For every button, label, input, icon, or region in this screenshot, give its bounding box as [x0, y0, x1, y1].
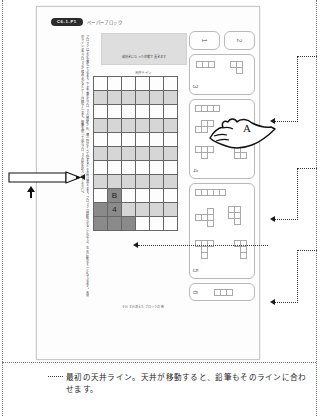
grid-cell[interactable] — [164, 119, 178, 133]
grid-cell[interactable] — [94, 119, 108, 133]
annotation-arrow-1 — [270, 118, 275, 124]
grid-cell[interactable] — [122, 119, 136, 133]
screenshot-viewport: C6-1-P1 ペーパーブロック ブロックは上から落ちてきます。下まで落ちたブロ… — [0, 0, 320, 416]
annotation-arrow-grid — [133, 242, 138, 248]
grid-cell[interactable] — [108, 77, 122, 91]
annotation-arrow-3 — [270, 299, 275, 305]
piece-panel-row-top: 1 2 — [189, 31, 255, 54]
piece-panel-1: 1 — [189, 31, 220, 50]
annotation-arrow-pencil — [80, 174, 85, 180]
instruction-text-vertical: ブロックは上から落ちてきます。下まで落ちたブロックは固定され、横一列がすべて埋ま… — [47, 35, 89, 297]
note-box-text: 縦向きになった状態で置きます — [102, 54, 186, 59]
grid-cell[interactable] — [94, 175, 108, 189]
piece-panel-2: 2 — [224, 31, 255, 50]
grid-cell[interactable] — [150, 217, 164, 231]
grid-cell[interactable] — [150, 175, 164, 189]
grid-cell[interactable] — [108, 217, 122, 231]
grid-cell[interactable] — [108, 91, 122, 105]
caption-leader — [48, 376, 63, 377]
grid-cell-label: B — [108, 189, 121, 202]
grid-cell[interactable] — [108, 175, 122, 189]
grid-cell[interactable] — [136, 77, 150, 91]
grid-cell[interactable] — [136, 91, 150, 105]
grid-cell[interactable] — [150, 91, 164, 105]
grid-cell-label: 4 — [108, 203, 121, 216]
grid-cell[interactable]: 4 — [108, 203, 122, 217]
grid-cell[interactable] — [150, 119, 164, 133]
page-caption: 最初の天井ライン。天井が移動すると、鉛筆もそのラインに合わせます。 — [66, 372, 310, 396]
piece-panel-2-number: 2 — [236, 39, 243, 43]
grid-cell[interactable] — [150, 161, 164, 175]
piece-panel-5: 5 — [189, 183, 255, 279]
play-grid: B4 — [93, 76, 178, 231]
grid-cell[interactable] — [122, 217, 136, 231]
piece-panel-6-number: 6 — [192, 291, 199, 295]
guide-right — [316, 0, 317, 416]
grid-cell[interactable] — [122, 161, 136, 175]
annotation-arrow-2 — [270, 216, 275, 222]
grid-cell[interactable] — [108, 161, 122, 175]
grid-cell[interactable]: B — [108, 189, 122, 203]
grid-cell[interactable] — [164, 147, 178, 161]
page-header: C6-1-P1 ペーパーブロック — [51, 18, 122, 26]
piece-panel-column: 1 2 3 — [189, 31, 255, 305]
grid-cell[interactable] — [150, 77, 164, 91]
grid-cell[interactable] — [94, 105, 108, 119]
grid-cell[interactable] — [164, 91, 178, 105]
grid-cell[interactable] — [122, 91, 136, 105]
grid-cell[interactable] — [94, 77, 108, 91]
grid-cell[interactable] — [150, 147, 164, 161]
grid-cell[interactable] — [108, 119, 122, 133]
grid-cell[interactable] — [136, 217, 150, 231]
grid-cell[interactable] — [94, 203, 108, 217]
grid-cell[interactable] — [122, 203, 136, 217]
grid-cell[interactable] — [108, 105, 122, 119]
grid-cell[interactable] — [94, 133, 108, 147]
grid-cell[interactable] — [164, 217, 178, 231]
guide-left — [2, 0, 3, 416]
grid-cell[interactable] — [164, 189, 178, 203]
grid-cell[interactable] — [108, 147, 122, 161]
grid-cell[interactable] — [94, 161, 108, 175]
grid-cell[interactable] — [122, 77, 136, 91]
grid-cell[interactable] — [136, 147, 150, 161]
grid-cell[interactable] — [136, 105, 150, 119]
grid-cell[interactable] — [94, 189, 108, 203]
piece-panel-1-number: 1 — [201, 39, 208, 43]
grid-cell[interactable] — [136, 119, 150, 133]
grid-cell[interactable] — [136, 203, 150, 217]
grid-cell[interactable] — [150, 189, 164, 203]
grid-cell[interactable] — [164, 175, 178, 189]
grid-cell[interactable] — [164, 133, 178, 147]
grid-cell[interactable] — [122, 133, 136, 147]
grid-cell[interactable] — [136, 133, 150, 147]
piece-panel-6: 6 — [189, 283, 255, 301]
grid-cell[interactable] — [164, 203, 178, 217]
pencil-icon — [8, 170, 82, 185]
grid-cell[interactable] — [122, 189, 136, 203]
grid-cell[interactable] — [150, 105, 164, 119]
grid-cell[interactable] — [164, 161, 178, 175]
grid-cell[interactable] — [136, 175, 150, 189]
piece-panel-4-number: 4 — [192, 169, 199, 173]
grid-label: 天井ライン — [101, 70, 185, 75]
grid-cell[interactable] — [122, 175, 136, 189]
piece-panel-3-number: 3 — [192, 85, 199, 89]
grid-cell[interactable] — [150, 203, 164, 217]
grid-cell[interactable] — [122, 147, 136, 161]
grid-cell[interactable] — [136, 161, 150, 175]
grid-cell[interactable] — [164, 105, 178, 119]
grid-cell[interactable] — [94, 217, 108, 231]
hand-label-a: A — [243, 122, 251, 134]
grid-cell[interactable] — [122, 105, 136, 119]
note-box: 縦向きになった状態で置きます — [101, 33, 187, 65]
guide-bottom — [2, 362, 316, 363]
grid-cell[interactable] — [136, 189, 150, 203]
grid-cell[interactable] — [150, 133, 164, 147]
grid-cell[interactable] — [164, 77, 178, 91]
page-title: ペーパーブロック — [87, 19, 122, 25]
page-code-badge: C6-1-P1 — [51, 18, 83, 26]
grid-cell[interactable] — [108, 133, 122, 147]
grid-cell[interactable] — [94, 147, 108, 161]
grid-cell[interactable] — [94, 91, 108, 105]
